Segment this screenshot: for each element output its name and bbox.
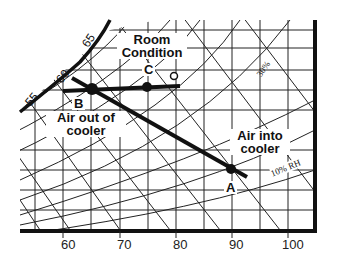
air-in-line-2: cooler <box>230 142 290 155</box>
point-a-label: A <box>224 181 237 194</box>
point-a-marker <box>226 164 236 174</box>
x-tick-80: 80 <box>173 237 187 252</box>
air-out-line-2: cooler <box>46 124 126 137</box>
point-c-label: C <box>142 63 155 76</box>
x-tick-90: 90 <box>229 237 243 252</box>
point-c-marker <box>142 82 152 92</box>
room-condition-label: Room Condition <box>117 33 187 59</box>
condition-label: Condition <box>117 46 187 59</box>
air-out-of-cooler-label: Air out of cooler <box>46 111 126 137</box>
air-into-cooler-label: Air into cooler <box>230 129 290 155</box>
x-tick-70: 70 <box>117 237 131 252</box>
x-tick-60: 60 <box>61 237 75 252</box>
x-tick-100: 100 <box>282 237 304 252</box>
point-b-label: B <box>72 97 85 110</box>
point-room-condition-marker <box>171 73 178 80</box>
point-b-marker <box>86 83 98 95</box>
